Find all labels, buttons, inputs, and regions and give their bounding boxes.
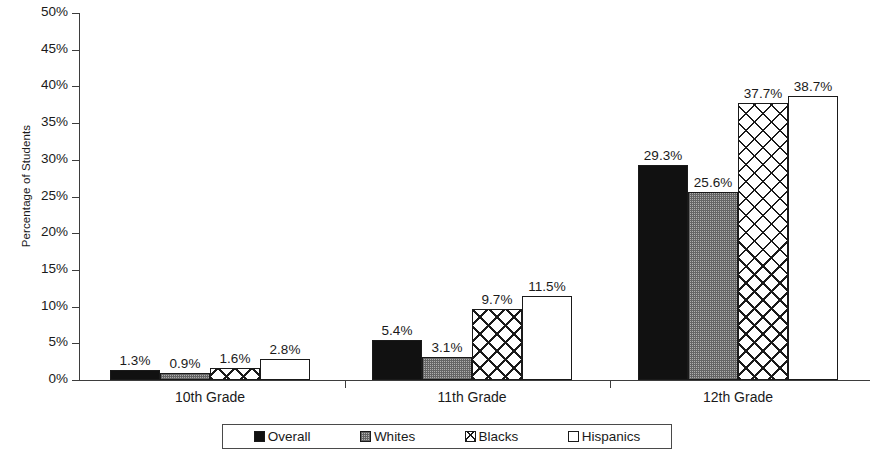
bar [160,373,210,380]
category-separator [610,380,611,388]
y-axis-tick-label: 0% [48,371,68,386]
bar [688,192,738,380]
y-axis-tick-label: 15% [41,261,68,276]
bar [522,296,572,380]
bar-value-label: 2.8% [254,342,316,357]
category-label: 10th Grade [140,389,280,405]
y-axis-tick-mark [72,233,79,234]
bar [638,165,688,380]
bar [260,359,310,380]
bar-value-label: 9.7% [466,292,528,307]
y-axis-tick-mark [72,307,79,308]
y-axis-tick-label: 50% [41,4,68,19]
y-axis-tick-label: 30% [41,151,68,166]
bar [422,357,472,380]
bar [372,340,422,380]
bar-value-label: 25.6% [682,175,744,190]
y-axis-tick-mark [72,123,79,124]
legend-label: Whites [374,429,415,444]
bar-chart: Percentage of Students 50%45%40%35%30%25… [0,0,874,460]
bar-value-label: 38.7% [782,79,844,94]
category-label: 12th Grade [668,389,808,405]
legend-label: Hispanics [582,429,641,444]
y-axis-tick-label: 35% [41,114,68,129]
y-axis-tick-label: 40% [41,77,68,92]
legend-swatch-icon [254,431,265,442]
y-axis-tick-label: 10% [41,298,68,313]
legend-item: Blacks [465,429,519,444]
y-axis-tick-mark [72,50,79,51]
y-axis-tick-label: 45% [41,41,68,56]
legend-label: Overall [268,429,311,444]
legend-item: Whites [360,429,415,444]
bar-value-label: 5.4% [366,323,428,338]
y-axis-tick-mark [72,86,79,87]
bar [738,103,788,380]
y-axis-tick-mark [72,160,79,161]
bar-value-label: 11.5% [516,279,578,294]
bar-value-label: 3.1% [416,340,478,355]
y-axis-title: Percentage of Students [20,86,32,286]
legend-item: Overall [254,429,311,444]
y-axis-tick-mark [72,13,79,14]
y-axis-tick-label: 5% [48,334,68,349]
y-axis-tick-label: 25% [41,188,68,203]
y-axis-tick-mark [72,343,79,344]
bar [210,368,260,380]
category-label: 11th Grade [402,389,542,405]
y-axis-tick-mark [72,380,79,381]
bar [788,96,838,380]
y-axis-tick-label: 20% [41,224,68,239]
y-axis-tick-mark [72,270,79,271]
y-axis-tick-mark [72,197,79,198]
category-separator [345,380,346,388]
bar [472,309,522,380]
legend-swatch-icon [568,431,579,442]
legend-swatch-icon [465,431,476,442]
x-axis-line [79,380,870,381]
legend-item: Hispanics [568,429,641,444]
legend-swatch-icon [360,431,371,442]
legend-label: Blacks [479,429,519,444]
bar [110,370,160,380]
chart-legend: OverallWhitesBlacksHispanics [222,424,672,449]
bar-value-label: 29.3% [632,148,694,163]
